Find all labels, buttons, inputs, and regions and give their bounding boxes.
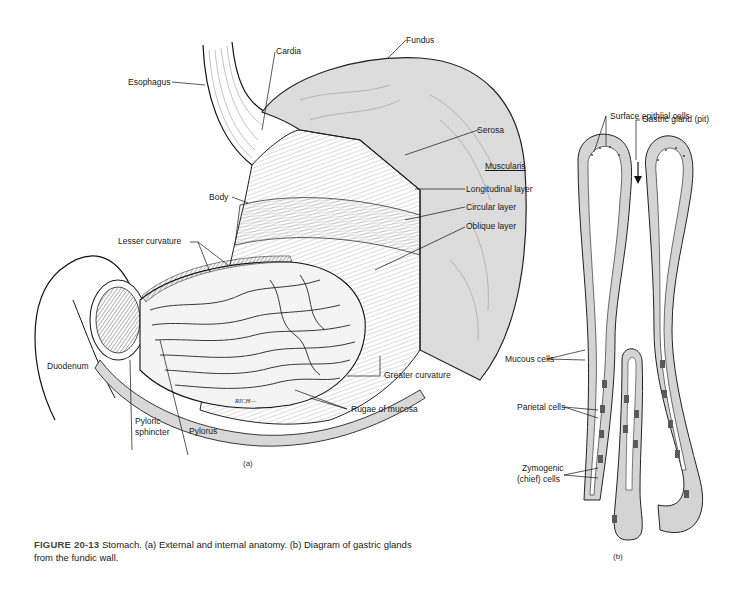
label-cardia: Cardia: [276, 46, 301, 56]
label-rugae-of-mucosa: Rugae of mucosa: [351, 404, 418, 414]
label-esophagus: Esophagus: [128, 77, 171, 87]
panel-b-tag: (b): [613, 552, 623, 561]
label-circular-layer: Circular layer: [466, 202, 516, 212]
label-greater-curvature: Greater curvature: [384, 370, 451, 380]
label-body: Body: [209, 192, 228, 202]
label-gastric-gland-pit: Gastric gland (pit): [642, 114, 709, 124]
figure-20-13: RICH—: [0, 0, 732, 591]
label-pyloric-sphincter-line1: Pyloric: [135, 416, 161, 426]
figure-caption: FIGURE 20-13 Stomach. (a) External and i…: [34, 538, 504, 564]
label-zymogenic-line1: Zymogenic: [522, 463, 564, 473]
label-parietal-cells: Parietal cells: [517, 402, 565, 412]
label-oblique-layer: Oblique layer: [466, 221, 516, 231]
label-fundus: Fundus: [406, 35, 434, 45]
figure-number: FIGURE 20-13: [34, 539, 99, 550]
label-longitudinal-layer: Longitudinal layer: [466, 184, 533, 194]
label-duodenum: Duodenum: [47, 361, 89, 371]
label-lesser-curvature: Lesser curvature: [118, 236, 181, 246]
label-pylorus: Pylorus: [189, 426, 217, 436]
label-serosa: Serosa: [477, 125, 504, 135]
caption-text-line2: from the fundic wall.: [34, 552, 118, 563]
label-zymogenic-line2: (chief) cells: [517, 474, 560, 484]
label-pyloric-sphincter-line2: sphincter: [135, 427, 170, 437]
label-muscularis: Muscularis: [485, 161, 526, 171]
gastric-glands-diagram: [0, 0, 732, 591]
panel-a-tag: (a): [243, 459, 253, 468]
caption-text: Stomach. (a) External and internal anato…: [102, 539, 412, 550]
label-mucous-cells: Mucous cells: [505, 354, 554, 364]
